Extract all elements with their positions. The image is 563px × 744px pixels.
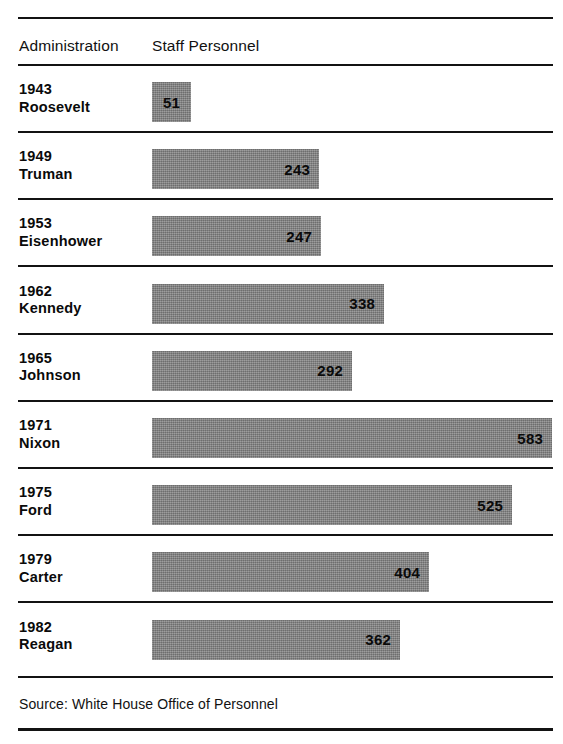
column-header-staff-personnel: Staff Personnel	[152, 37, 259, 55]
row-label: 1982Reagan	[19, 619, 73, 654]
row-administration-name: Ford	[19, 502, 52, 520]
bar-track: 525	[152, 485, 512, 525]
row-year: 1982	[19, 619, 73, 637]
row-administration-name: Kennedy	[19, 300, 82, 318]
row-separator	[18, 467, 553, 469]
column-header-administration: Administration	[19, 37, 119, 55]
row-separator	[18, 131, 553, 133]
chart-row: 1962Kennedy338	[0, 273, 563, 340]
bar: 362	[152, 620, 400, 660]
chart-row: 1979Carter404	[0, 541, 563, 608]
bar: 243	[152, 149, 319, 189]
bar-track: 404	[152, 552, 429, 592]
chart-sheet: Administration Staff Personnel 1943Roose…	[0, 0, 563, 744]
bar-track: 338	[152, 284, 384, 324]
chart-row: 1965Johnson292	[0, 340, 563, 407]
row-year: 1943	[19, 81, 90, 99]
row-administration-name: Johnson	[19, 367, 81, 385]
row-year: 1975	[19, 484, 52, 502]
chart-row: 1975Ford525	[0, 474, 563, 541]
row-administration-name: Roosevelt	[19, 99, 90, 117]
bar: 583	[152, 418, 552, 458]
chart-row: 1953Eisenhower247	[0, 205, 563, 272]
bar-value-label: 525	[477, 497, 512, 514]
row-administration-name: Carter	[19, 569, 63, 587]
bar-track: 247	[152, 216, 321, 256]
bar: 292	[152, 351, 352, 391]
bar-value-label: 243	[284, 161, 319, 178]
row-year: 1949	[19, 148, 73, 166]
bar: 404	[152, 552, 429, 592]
row-year: 1979	[19, 551, 63, 569]
row-label: 1949Truman	[19, 148, 73, 183]
bar-value-label: 362	[365, 631, 400, 648]
bar-track: 51	[152, 82, 191, 122]
chart-row: 1949Truman243	[0, 138, 563, 205]
bar-value-label: 51	[163, 94, 180, 111]
bottom-rule	[18, 728, 553, 731]
row-year: 1953	[19, 215, 102, 233]
header-rule	[18, 64, 553, 66]
bar-value-label: 247	[286, 228, 321, 245]
row-separator	[18, 400, 553, 402]
bar: 247	[152, 216, 321, 256]
row-label: 1979Carter	[19, 551, 63, 586]
row-label: 1965Johnson	[19, 350, 81, 385]
row-label: 1953Eisenhower	[19, 215, 102, 250]
footer-rule	[18, 676, 553, 678]
bar-track: 292	[152, 351, 352, 391]
row-separator	[18, 534, 553, 536]
row-separator	[18, 265, 553, 267]
row-administration-name: Eisenhower	[19, 233, 102, 251]
row-separator	[18, 601, 553, 603]
bar: 51	[152, 82, 191, 122]
row-separator	[18, 333, 553, 335]
chart-row: 1982Reagan362	[0, 609, 563, 676]
row-year: 1965	[19, 350, 81, 368]
row-year: 1971	[19, 417, 60, 435]
row-label: 1962Kennedy	[19, 283, 82, 318]
row-label: 1975Ford	[19, 484, 52, 519]
source-note: Source: White House Office of Personnel	[19, 696, 278, 712]
chart-row: 1943Roosevelt51	[0, 71, 563, 138]
row-administration-name: Nixon	[19, 435, 60, 453]
top-rule	[18, 17, 553, 19]
bar: 525	[152, 485, 512, 525]
bar-track: 362	[152, 620, 400, 660]
row-separator	[18, 198, 553, 200]
bar: 338	[152, 284, 384, 324]
bar-value-label: 583	[517, 430, 552, 447]
row-label: 1971Nixon	[19, 417, 60, 452]
row-administration-name: Reagan	[19, 636, 73, 654]
bar-value-label: 338	[349, 295, 384, 312]
row-administration-name: Truman	[19, 166, 73, 184]
chart-row: 1971Nixon583	[0, 407, 563, 474]
row-label: 1943Roosevelt	[19, 81, 90, 116]
bar-track: 583	[152, 418, 552, 458]
bar-value-label: 404	[394, 564, 429, 581]
row-year: 1962	[19, 283, 82, 301]
bar-track: 243	[152, 149, 319, 189]
bar-value-label: 292	[317, 362, 352, 379]
